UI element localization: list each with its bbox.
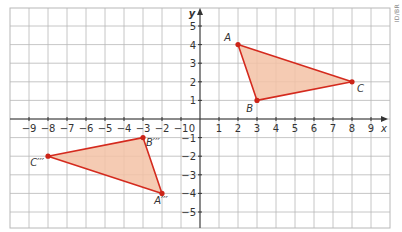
y-tick-label: −4 — [181, 188, 196, 199]
x-tick-label: 6 — [311, 123, 317, 134]
x-tick-label: −6 — [79, 123, 94, 134]
vertex-point — [45, 154, 50, 159]
x-tick-label: 5 — [292, 123, 298, 134]
x-tick-label: −7 — [60, 123, 75, 134]
y-tick-label: −1 — [181, 133, 196, 144]
y-tick-label: 3 — [190, 58, 196, 69]
x-tick-label: −4 — [117, 123, 132, 134]
x-tick-label: 2 — [235, 123, 241, 134]
x-tick-label: −8 — [41, 123, 56, 134]
x-tick-label: 1 — [216, 123, 222, 134]
y-tick-label: 4 — [190, 40, 196, 51]
vertex-point — [349, 79, 354, 84]
coordinate-grid-svg: −9−8−7−6−5−4−3−2−112345678954321−1−2−3−4… — [0, 0, 402, 232]
image-credit: ID/BR — [393, 4, 400, 22]
y-tick-label: −3 — [181, 170, 196, 181]
vertex-point — [140, 135, 145, 140]
coordinate-plane: −9−8−7−6−5−4−3−2−112345678954321−1−2−3−4… — [0, 0, 402, 232]
x-axis-label: x — [380, 123, 387, 134]
x-tick-label: 3 — [254, 123, 260, 134]
x-tick-label: 8 — [349, 123, 355, 134]
y-tick-label: −2 — [181, 151, 196, 162]
vertex-label: C′′′ — [30, 157, 45, 168]
vertex-label: A′′′ — [153, 195, 168, 206]
x-tick-label: −9 — [22, 123, 37, 134]
x-tick-label: 9 — [368, 123, 374, 134]
x-tick-label: 7 — [330, 123, 336, 134]
y-tick-label: 2 — [190, 77, 196, 88]
vertex-label: B′′′ — [146, 137, 160, 148]
vertex-label: B — [246, 103, 253, 114]
y-tick-label: −5 — [181, 207, 196, 218]
vertex-label: C — [357, 83, 364, 94]
origin-label: 0 — [189, 123, 195, 134]
y-axis-label: y — [189, 8, 196, 19]
x-tick-label: −3 — [136, 123, 151, 134]
x-tick-label: 4 — [273, 123, 279, 134]
y-tick-label: 1 — [190, 95, 196, 106]
x-tick-label: −5 — [98, 123, 113, 134]
vertex-label: A — [223, 32, 231, 43]
y-tick-label: 5 — [190, 21, 196, 32]
x-tick-label: −2 — [155, 123, 170, 134]
vertex-point — [254, 98, 259, 103]
vertex-point — [235, 42, 240, 47]
